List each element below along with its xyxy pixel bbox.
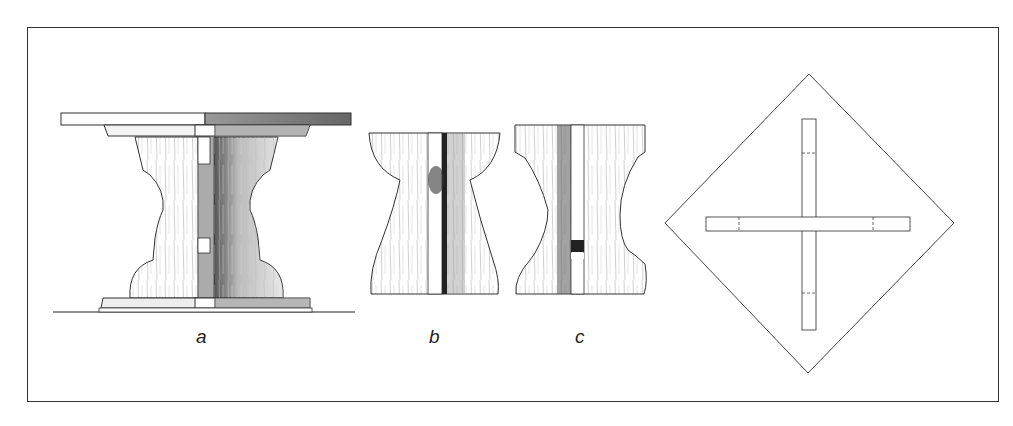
plan-view-diamond [665,74,954,373]
drawing-canvas [0,0,1013,426]
view-label-a: a [196,326,207,348]
view-c-leg-side [515,125,646,294]
view-a-table-elevation [53,113,355,312]
view-label-b: b [429,326,440,348]
view-b-leg-end [369,133,500,294]
view-label-c: c [575,326,585,348]
